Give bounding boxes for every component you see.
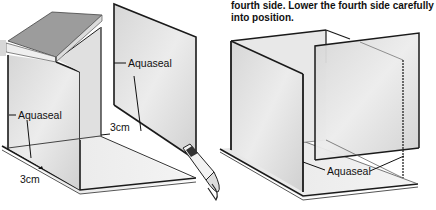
glass-free-panel	[114, 4, 196, 160]
sealant-tube-icon	[183, 144, 219, 200]
label-gap-back: 3cm	[110, 121, 130, 133]
left-figure: Aquaseal Aquaseal 3cm 3cm	[0, 4, 219, 200]
label-aquaseal-base: Aquaseal	[327, 165, 371, 177]
label-gap-front: 3cm	[20, 173, 40, 185]
leader-aquaseal-base-right	[370, 156, 404, 171]
gap-arrow-back	[101, 134, 110, 135]
diagram-canvas: Aquaseal Aquaseal 3cm 3cm	[0, 0, 436, 210]
label-aquaseal-panel: Aquaseal	[128, 57, 172, 69]
right-figure: Aquaseal	[220, 30, 419, 200]
label-aquaseal-side: Aquaseal	[18, 109, 62, 121]
